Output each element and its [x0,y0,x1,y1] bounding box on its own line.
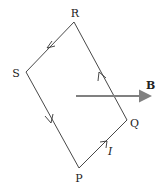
field-label-B: B [146,79,155,92]
vertex-label-S: S [12,67,20,80]
vertex-label-R: R [71,7,80,20]
current-arrow-RS-icon [47,41,55,48]
side-QR [74,22,127,120]
side-PQ [79,120,127,168]
current-arrow-PQ-icon [100,141,107,148]
side-SP [26,72,79,168]
current-loop-diagram: R S P Q B I [0,0,167,194]
vertex-label-P: P [75,172,83,185]
current-label-I: I [107,145,113,158]
vertex-label-Q: Q [130,117,139,130]
current-arrow-SP-icon [45,114,53,123]
